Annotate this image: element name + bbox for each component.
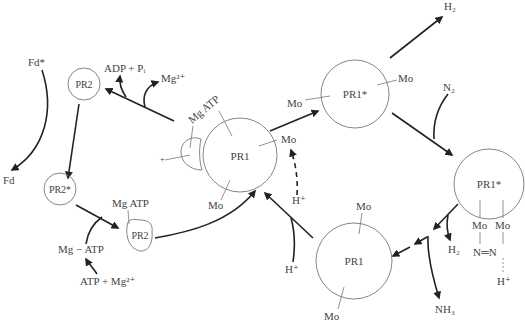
h2-release-right-arrow	[434, 204, 458, 229]
svg-text:PR2*: PR2*	[49, 184, 71, 195]
pr2-to-pr1-arrow	[155, 191, 255, 238]
adp-pi-label: ADP + Pᵢ	[104, 62, 145, 74]
svg-text:Mo: Mo	[324, 310, 340, 322]
svg-text:PR1: PR1	[345, 255, 364, 267]
h2-right-label: H₂	[448, 243, 460, 255]
pr1-star-top-node: PR1* Mo Mo	[287, 60, 414, 128]
h2-right-sub-arrow	[447, 215, 450, 240]
svg-text:PR1*: PR1*	[343, 88, 367, 100]
svg-text:PR2: PR2	[75, 79, 92, 90]
pr1-to-pr1star-arrow	[270, 111, 318, 131]
mg-release-arrow	[144, 82, 158, 107]
pr2-top-node: PR2	[68, 68, 100, 100]
svg-text:Mo: Mo	[472, 219, 488, 231]
svg-text:+: +	[160, 155, 165, 164]
to-pr1-bottom-arrow	[393, 247, 410, 256]
fd-star-label: Fd*	[28, 56, 45, 68]
svg-text:PR2: PR2	[131, 230, 148, 241]
svg-text:Mo: Mo	[287, 97, 303, 109]
h-plus-label-bottom: H⁺	[285, 263, 299, 275]
nh3-label: NH₃	[435, 303, 455, 315]
n2-label: N₂	[443, 81, 455, 93]
atp-plus-mg-label: ATP + Mg²⁺	[80, 275, 135, 287]
atp-mg-arrow	[86, 259, 97, 274]
nitrogenase-diagram: Fd* Fd PR2 PR2* Mg − ATP ATP + Mg²⁺ Mg A…	[0, 0, 525, 324]
svg-text:PR1: PR1	[231, 150, 250, 162]
fd-arrow	[12, 70, 48, 170]
svg-text:Mo: Mo	[208, 199, 224, 211]
pr1bottom-to-pr1-arrow	[265, 193, 313, 238]
mg-atp-left-label: Mg ATP	[112, 197, 149, 209]
pr1-to-pr2-arrow	[106, 89, 174, 121]
svg-text:Mo: Mo	[495, 219, 511, 231]
svg-text:N═N: N═N	[473, 246, 497, 258]
mg2-top-label: Mg²⁺	[161, 72, 186, 84]
svg-text:Mo: Mo	[398, 72, 414, 84]
pr1-star-right-node: PR1* Mo Mo N═N H⁺	[454, 149, 524, 287]
pr2-to-pr2star-arrow	[68, 104, 79, 178]
mg-minus-atp-label: Mg − ATP	[58, 243, 104, 255]
nh3-release-arrow	[428, 236, 439, 298]
h-plus-dashed-arrow	[291, 150, 297, 195]
fd-label: Fd	[3, 174, 15, 186]
pr2-mgatp-node: PR2	[127, 219, 152, 251]
pr1-mgatp-attachment: +	[160, 138, 202, 170]
svg-text:Mo: Mo	[281, 133, 297, 145]
h2-top-label: H₂	[444, 0, 456, 12]
adp-pi-release-arrow	[120, 76, 126, 97]
pr1star-to-pr1star-arrow	[392, 113, 452, 155]
svg-text:H⁺: H⁺	[497, 275, 511, 287]
h-plus-join-arrow	[291, 218, 294, 262]
pr2-star-node: PR2*	[44, 173, 76, 205]
mg-atp-joins-arrow	[86, 217, 102, 244]
nh3-step-arrow	[415, 237, 427, 244]
pr1-bottom-node: PR1 Mo Mo	[316, 200, 392, 322]
svg-text:Mo: Mo	[356, 200, 372, 212]
mg-atp-center-label: Mg ATP	[186, 93, 222, 126]
h-plus-label-center: H⁺	[292, 194, 306, 206]
n2-join-arrow	[434, 94, 448, 139]
h2-release-arrow	[390, 17, 442, 58]
svg-text:PR1*: PR1*	[477, 178, 501, 190]
